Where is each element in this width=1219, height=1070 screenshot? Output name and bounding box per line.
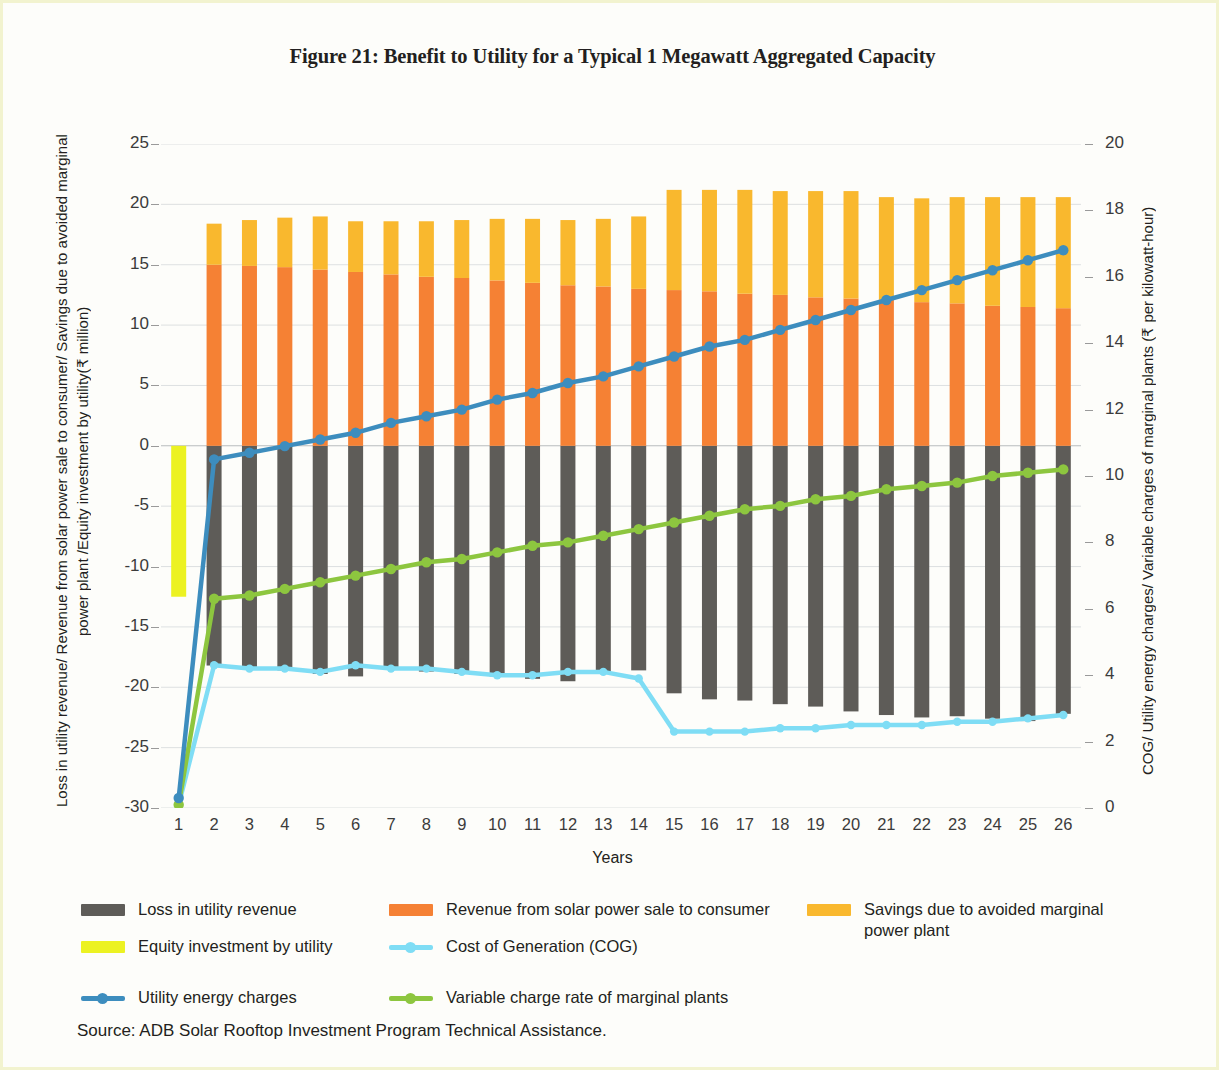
line-marker [740, 504, 750, 514]
legend-swatch-equity-investment [81, 941, 125, 953]
line-marker [881, 295, 891, 305]
line-marker [847, 721, 855, 729]
line-marker [458, 668, 466, 676]
line-marker [387, 664, 395, 672]
legend-label-1: Revenue from solar power sale to consume… [446, 899, 770, 920]
line-marker [315, 577, 325, 587]
y-axis-right-tick: 2 [1105, 731, 1145, 751]
legend-label-4: Cost of Generation (COG) [446, 936, 638, 957]
bar-equity-investment [171, 446, 186, 597]
line-marker [917, 285, 927, 295]
y-axis-right-tick: 12 [1105, 399, 1145, 419]
x-axis-tick: 17 [728, 815, 762, 834]
line-marker [634, 524, 644, 534]
bar-savings-avoided-marginal [242, 220, 257, 266]
y-axis-left-tickmark [151, 506, 159, 507]
line-marker [598, 531, 608, 541]
bar-loss-in-utility-revenue [702, 446, 717, 700]
y-axis-left-tickmark [151, 325, 159, 326]
line-marker [527, 388, 537, 398]
legend-swatch-utility-energy-charges [81, 991, 125, 1005]
figure-source: Source: ADB Solar Rooftop Investment Pro… [77, 1021, 607, 1041]
y-axis-left-tick: 5 [103, 374, 149, 394]
bar-savings-avoided-marginal [348, 221, 363, 272]
figure-title: Figure 21: Benefit to Utility for a Typi… [3, 45, 1219, 68]
chart-legend: Loss in utility revenue Revenue from sol… [81, 899, 1171, 1010]
x-axis-tick: 16 [692, 815, 726, 834]
legend-item-3[interactable]: Equity investment by utility [81, 936, 332, 957]
bar-loss-in-utility-revenue [1056, 446, 1071, 714]
bar-savings-avoided-marginal [490, 219, 505, 281]
bar-savings-avoided-marginal [773, 191, 788, 295]
x-axis-tick: 3 [232, 815, 266, 834]
x-axis-tick: 21 [869, 815, 903, 834]
legend-swatch-savings-avoided-marginal [807, 904, 851, 916]
x-axis-tick: 23 [940, 815, 974, 834]
bar-loss-in-utility-revenue [525, 446, 540, 679]
bar-savings-avoided-marginal [384, 221, 399, 274]
x-axis-tick: 14 [622, 815, 656, 834]
legend-item-6[interactable]: Variable charge rate of marginal plants [389, 987, 728, 1008]
line-marker [386, 418, 396, 428]
line-marker [280, 441, 290, 451]
line-marker [280, 584, 290, 594]
line-marker [952, 477, 962, 487]
bar-revenue-solar-sale [879, 300, 894, 446]
line-marker [457, 554, 467, 564]
legend-item-0[interactable]: Loss in utility revenue [81, 899, 297, 920]
line-marker [1024, 714, 1032, 722]
line-marker [493, 671, 501, 679]
line-series [179, 469, 1064, 804]
line-marker [563, 537, 573, 547]
legend-label-2: Savings due to avoided marginal power pl… [864, 899, 1107, 941]
legend-swatch-revenue-from-solar [389, 904, 433, 916]
line-marker [244, 590, 254, 600]
line-marker [244, 448, 254, 458]
bar-revenue-solar-sale [454, 278, 469, 446]
line-marker [952, 275, 962, 285]
bar-revenue-solar-sale [313, 270, 328, 446]
line-marker [705, 727, 713, 735]
line-marker [350, 570, 360, 580]
line-marker [1023, 255, 1033, 265]
line-marker [492, 547, 502, 557]
line-marker [740, 335, 750, 345]
legend-label-5: Utility energy charges [138, 987, 297, 1008]
legend-swatch-cost-of-generation [389, 940, 433, 954]
x-axis-tick: 12 [551, 815, 585, 834]
line-marker [422, 664, 430, 672]
y-axis-left-tickmark [151, 748, 159, 749]
y-axis-right-tick: 16 [1105, 266, 1145, 286]
line-marker [564, 668, 572, 676]
line-marker [988, 718, 996, 726]
legend-item-2[interactable]: Savings due to avoided marginal power pl… [807, 899, 1107, 941]
legend-item-4[interactable]: Cost of Generation (COG) [389, 936, 638, 957]
legend-item-1[interactable]: Revenue from solar power sale to consume… [389, 899, 770, 920]
bar-revenue-solar-sale [1056, 308, 1071, 446]
x-axis-label: Years [3, 849, 1219, 867]
x-axis-tick: 22 [905, 815, 939, 834]
bar-loss-in-utility-revenue [384, 446, 399, 669]
line-marker [350, 428, 360, 438]
y-axis-left-label: Loss in utility revenue/ Revenue from so… [51, 115, 97, 827]
y-axis-left-tick: 25 [103, 133, 149, 153]
bar-loss-in-utility-revenue [985, 446, 1000, 719]
bar-savings-avoided-marginal [560, 220, 575, 285]
y-axis-right-tick: 0 [1105, 797, 1145, 817]
x-axis-tick: 4 [268, 815, 302, 834]
bar-savings-avoided-marginal [985, 197, 1000, 306]
y-axis-right-tick: 14 [1105, 332, 1145, 352]
bar-revenue-solar-sale [277, 267, 292, 446]
bar-savings-avoided-marginal [313, 216, 328, 269]
y-axis-left-tick: -5 [103, 495, 149, 515]
bar-loss-in-utility-revenue [596, 446, 611, 674]
bar-savings-avoided-marginal [454, 220, 469, 278]
line-marker [421, 411, 431, 421]
line-marker [1058, 464, 1068, 474]
legend-item-5[interactable]: Utility energy charges [81, 987, 297, 1008]
bar-loss-in-utility-revenue [1020, 446, 1035, 721]
line-marker [210, 661, 218, 669]
y-axis-left-tickmark [151, 687, 159, 688]
x-axis-tick: 24 [976, 815, 1010, 834]
line-series [179, 665, 1064, 805]
